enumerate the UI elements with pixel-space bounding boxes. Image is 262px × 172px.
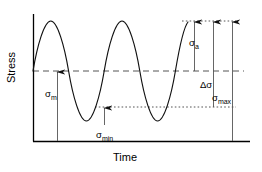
- y-axis-label: Stress: [6, 44, 17, 92]
- sigma-m-label: σm: [45, 89, 57, 101]
- x-axis-label: Time: [113, 152, 137, 163]
- sigma-a-label: σa: [189, 38, 199, 50]
- sigma-a-subscript: a: [195, 43, 199, 50]
- sigma-min-label: σmin: [96, 130, 113, 142]
- plot-canvas: [0, 0, 262, 172]
- delta-sigma-symbol: Δσ: [200, 79, 212, 90]
- cyclic-stress-diagram: Stress Time σa σm σmin Δσ σmax: [0, 0, 262, 172]
- sigma-m-subscript: m: [51, 94, 57, 101]
- sigma-max-subscript: max: [218, 98, 231, 105]
- sigma-max-label: σmax: [212, 93, 231, 105]
- sigma-min-subscript: min: [102, 135, 113, 142]
- delta-sigma-label: Δσ: [200, 80, 212, 90]
